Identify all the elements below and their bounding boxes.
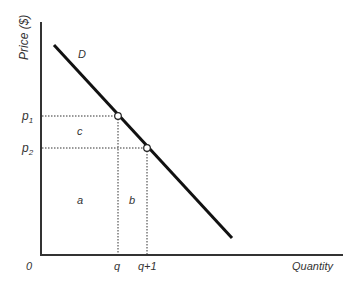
area-c-label: c: [77, 126, 83, 137]
origin-label: 0: [26, 261, 32, 272]
x-axis-label: Quantity: [292, 261, 333, 272]
point-q1-p2: [144, 145, 151, 152]
p2-tick-label: p2: [22, 142, 33, 157]
p1-sub: 1: [29, 116, 33, 125]
chart-canvas: [0, 0, 362, 283]
demand-curve: [54, 45, 232, 238]
area-b-label: b: [129, 195, 135, 206]
point-q-p1: [115, 113, 122, 120]
curve-label-d: D: [78, 49, 86, 60]
area-a-label: a: [77, 195, 83, 206]
y-axis-label: Price ($): [18, 15, 30, 60]
q1-tick-label: q+1: [138, 261, 157, 272]
p1-main: p: [22, 109, 29, 123]
q-tick-label: q: [114, 261, 120, 272]
p1-tick-label: p1: [22, 110, 33, 125]
p2-main: p: [22, 141, 29, 155]
p2-sub: 2: [29, 148, 33, 157]
